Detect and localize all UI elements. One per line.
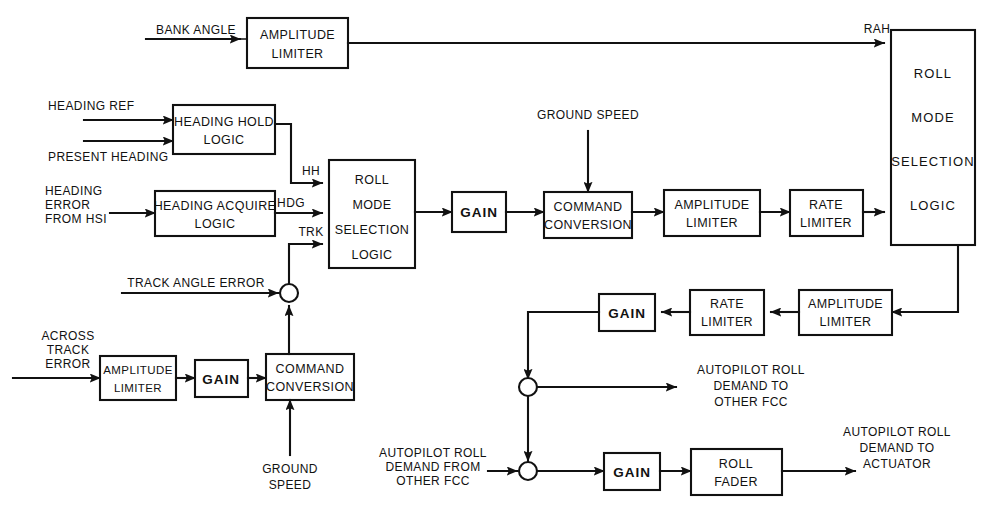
- to-actuator-line1: AUTOPILOT ROLL: [843, 425, 951, 439]
- from-other-fcc-line1: AUTOPILOT ROLL: [379, 446, 487, 460]
- ground-speed-bottom-line1: GROUND: [262, 462, 318, 476]
- gain-mid-label: GAIN: [460, 205, 498, 220]
- block-gain-mid: GAIN: [452, 192, 506, 232]
- block-command-conversion-mid: COMMAND CONVERSION: [544, 192, 632, 238]
- heading-acquire-logic-line1: HEADING ACQUIRE: [154, 199, 277, 213]
- rmsl-right-line3: SELECTION: [891, 154, 975, 169]
- roll-fader-line2: FADER: [714, 475, 758, 489]
- summing-junction-from-other-fcc: [519, 462, 537, 480]
- autopilot-roll-demand-from-other-fcc-input: AUTOPILOT ROLL DEMAND FROM OTHER FCC: [379, 446, 517, 488]
- block-amplitude-limiter-track: AMPLITUDE LIMITER: [100, 356, 176, 400]
- bank-angle-input: BANK ANGLE: [146, 23, 247, 39]
- hdg-path: HDG: [275, 196, 322, 213]
- track-angle-error-label: TRACK ANGLE ERROR: [127, 276, 265, 290]
- to-other-fcc-line3: OTHER FCC: [714, 395, 788, 409]
- rate-limiter-fwd-line2: LIMITER: [800, 216, 852, 230]
- heading-error-line3: FROM HSI: [45, 212, 107, 226]
- amplitude-limiter-top-line1: AMPLITUDE: [260, 28, 335, 42]
- heading-error-line1: HEADING: [45, 184, 102, 198]
- trk-label: TRK: [298, 225, 323, 239]
- rmsl-mid-line1: ROLL: [355, 173, 389, 187]
- rate-limiter-fb-line2: LIMITER: [701, 315, 753, 329]
- to-actuator-line2: DEMAND TO: [859, 441, 934, 455]
- bank-angle-label: BANK ANGLE: [156, 23, 236, 37]
- rmsl-right-line2: MODE: [911, 110, 954, 125]
- across-track-error-line2: TRACK: [47, 343, 90, 357]
- hh-path: HH: [275, 124, 322, 183]
- amplitude-limiter-fb-line2: LIMITER: [819, 315, 871, 329]
- across-track-error-line1: ACROSS: [41, 329, 94, 343]
- heading-hold-logic-line1: HEADING HOLD: [174, 115, 274, 129]
- summing-junction-other-fcc-out: [519, 378, 537, 396]
- block-amplitude-limiter-top: AMPLITUDE LIMITER: [247, 18, 348, 68]
- block-gain-out: GAIN: [604, 453, 660, 490]
- amplitude-limiter-track-line1: AMPLITUDE: [103, 364, 172, 376]
- heading-error-input: HEADING ERROR FROM HSI: [45, 184, 155, 226]
- rmsl-right-feedback-line: [892, 245, 958, 312]
- rate-limiter-fb-line1: RATE: [710, 297, 744, 311]
- gain-track-label: GAIN: [202, 372, 240, 387]
- heading-ref-label: HEADING REF: [48, 99, 134, 113]
- block-roll-mode-selection-logic-mid: ROLL MODE SELECTION LOGIC: [329, 160, 415, 268]
- block-roll-fader: ROLL FADER: [691, 449, 782, 495]
- amplitude-limiter-top-line2: LIMITER: [271, 47, 323, 61]
- block-command-conversion-track: COMMAND CONVERSION: [266, 354, 354, 400]
- command-conversion-mid-line1: COMMAND: [554, 200, 623, 214]
- rah-label: RAH: [864, 22, 891, 36]
- amplitude-limiter-track-line2: LIMITER: [114, 382, 162, 394]
- amplitude-limiter-fb-line1: AMPLITUDE: [808, 297, 883, 311]
- rah-path: RAH: [348, 22, 890, 43]
- block-amplitude-limiter-fb: AMPLITUDE LIMITER: [799, 290, 892, 335]
- block-amplitude-limiter-fwd: AMPLITUDE LIMITER: [664, 190, 760, 236]
- block-rate-limiter-fwd: RATE LIMITER: [790, 190, 863, 236]
- ground-speed-bottom-input: GROUND SPEED: [262, 400, 318, 492]
- present-heading-label: PRESENT HEADING: [48, 150, 168, 164]
- ground-speed-bottom-line2: SPEED: [269, 478, 312, 492]
- rate-limiter-fwd-line1: RATE: [809, 198, 843, 212]
- gain-out-label: GAIN: [613, 465, 651, 480]
- heading-ref-input: HEADING REF: [48, 99, 173, 120]
- heading-hold-logic-line2: LOGIC: [204, 133, 245, 147]
- gainfb-to-junction-line: [528, 312, 599, 379]
- gain-fb-label: GAIN: [608, 306, 646, 321]
- amplitude-limiter-fwd-line2: LIMITER: [686, 216, 738, 230]
- command-conversion-mid-line2: CONVERSION: [544, 218, 632, 232]
- rmsl-mid-line4: LOGIC: [352, 248, 393, 262]
- summing-junction-track-angle: [280, 284, 298, 302]
- from-other-fcc-line2: DEMAND FROM: [385, 460, 480, 474]
- rmsl-right-line4: LOGIC: [910, 198, 956, 213]
- heading-acquire-logic-line2: LOGIC: [195, 217, 236, 231]
- roll-fader-line1: ROLL: [719, 457, 753, 471]
- block-heading-acquire-logic: HEADING ACQUIRE LOGIC: [154, 191, 277, 236]
- rmsl-mid-line3: SELECTION: [335, 223, 409, 237]
- ground-speed-top-input: GROUND SPEED: [537, 108, 639, 192]
- block-roll-mode-selection-logic-right: ROLL MODE SELECTION LOGIC: [891, 30, 975, 245]
- autopilot-roll-demand-to-other-fcc-output: AUTOPILOT ROLL DEMAND TO OTHER FCC: [537, 363, 805, 409]
- block-rate-limiter-fb: RATE LIMITER: [690, 290, 764, 335]
- track-angle-error-input: TRACK ANGLE ERROR: [122, 276, 281, 293]
- hdg-label: HDG: [277, 196, 305, 210]
- present-heading-input: PRESENT HEADING: [48, 141, 173, 164]
- from-other-fcc-line3: OTHER FCC: [396, 474, 470, 488]
- rmsl-right-line1: ROLL: [914, 66, 952, 81]
- command-conversion-track-line2: CONVERSION: [266, 380, 354, 394]
- to-actuator-line3: ACTUATOR: [863, 457, 931, 471]
- block-gain-fb: GAIN: [599, 294, 655, 331]
- rmsl-mid-line2: MODE: [352, 198, 391, 212]
- across-track-error-input: ACROSS TRACK ERROR: [13, 329, 100, 378]
- heading-error-line2: ERROR: [45, 198, 90, 212]
- amplitude-limiter-fwd-line1: AMPLITUDE: [674, 198, 749, 212]
- block-gain-track: GAIN: [195, 360, 248, 397]
- autopilot-roll-demand-to-actuator-output: AUTOPILOT ROLL DEMAND TO ACTUATOR: [782, 425, 951, 471]
- trk-path: TRK: [289, 225, 324, 293]
- roll-channel-block-diagram: BANK ANGLE AMPLITUDE LIMITER RAH ROLL MO…: [0, 0, 986, 510]
- across-track-error-line3: ERROR: [45, 357, 90, 371]
- to-other-fcc-line2: DEMAND TO: [713, 379, 788, 393]
- hh-label: HH: [302, 164, 320, 178]
- block-heading-hold-logic: HEADING HOLD LOGIC: [173, 105, 275, 154]
- to-other-fcc-line1: AUTOPILOT ROLL: [697, 363, 805, 377]
- ground-speed-top-label: GROUND SPEED: [537, 108, 639, 122]
- command-conversion-track-line1: COMMAND: [276, 362, 345, 376]
